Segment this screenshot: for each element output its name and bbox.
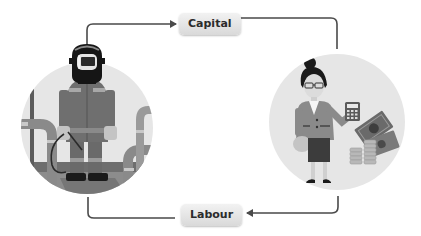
capital-node: Capital xyxy=(179,13,241,35)
capital-labour-cycle-diagram: Capital Labour xyxy=(0,0,421,236)
diagram-canvas xyxy=(0,0,421,236)
worker-illustration xyxy=(20,44,155,202)
capitalist-illustration xyxy=(269,54,405,190)
labour-node-label: Labour xyxy=(190,208,233,221)
labour-node: Labour xyxy=(181,204,242,226)
connector-labour-to-worker xyxy=(88,197,175,218)
capital-node-label: Capital xyxy=(188,17,232,30)
connector-capitalist-to-labour xyxy=(247,196,338,213)
connector-capital-to-capitalist xyxy=(240,18,337,49)
connector-worker-to-capital xyxy=(87,24,176,46)
